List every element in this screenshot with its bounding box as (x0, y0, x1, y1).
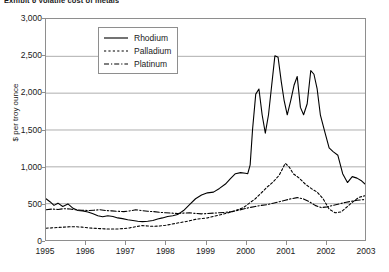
x-tick-label: 1995 (28, 247, 62, 256)
legend-item: Palladium (103, 44, 171, 57)
legend-item: Platinum (103, 57, 171, 70)
legend-label-palladium: Palladium (134, 46, 171, 56)
legend-key-palladium (103, 46, 129, 56)
x-tick-label: 1998 (148, 247, 182, 256)
y-tick-label: 2,000 (0, 88, 42, 96)
y-tick-label: 500 (0, 200, 42, 208)
series-line-platinum (46, 198, 365, 214)
x-tick-mark (326, 241, 327, 245)
x-tick-mark (286, 241, 287, 245)
legend-key-platinum (103, 59, 129, 69)
legend-label-platinum: Platinum (134, 59, 167, 69)
chart-figure: Exhibit 6 Volatile cost of metals $ per … (0, 0, 389, 272)
legend-item: Rhodium (103, 31, 171, 44)
series-line-rhodium (46, 56, 365, 222)
x-tick-label: 2001 (269, 247, 303, 256)
x-tick-mark (165, 241, 166, 245)
series-line-palladium (46, 163, 365, 229)
legend-label-rhodium: Rhodium (134, 33, 168, 43)
y-tick-label: 2,500 (0, 51, 42, 59)
x-tick-label: 2003 (349, 247, 383, 256)
x-tick-label: 1996 (68, 247, 102, 256)
x-tick-label: 1999 (189, 247, 223, 256)
y-axis-ticks: 3,0002,5002,0001,5001,0005000 (0, 0, 42, 272)
x-tick-label: 2002 (309, 247, 343, 256)
y-tick-label: 3,000 (0, 14, 42, 22)
x-tick-label: 1997 (108, 247, 142, 256)
plot-area (45, 18, 366, 241)
x-tick-mark (246, 241, 247, 245)
plot-svg (46, 19, 365, 240)
y-tick-label: 1,000 (0, 163, 42, 171)
legend-key-rhodium (103, 33, 129, 43)
x-tick-mark (125, 241, 126, 245)
y-tick-label: 0 (0, 237, 42, 245)
x-tick-mark (85, 241, 86, 245)
x-tick-label: 2000 (229, 247, 263, 256)
y-tick-mark (41, 241, 45, 242)
y-tick-label: 1,500 (0, 126, 42, 134)
chart-legend: Rhodium Palladium Platinum (98, 27, 178, 74)
x-tick-mark (206, 241, 207, 245)
